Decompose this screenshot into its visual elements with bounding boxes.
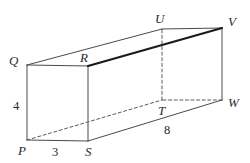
vertex-label-s: S [85, 144, 92, 159]
vertex-label-r: R [79, 50, 88, 65]
vertex-label-v: V [228, 14, 238, 29]
edge-Q-U [27, 29, 162, 65]
edge-R-V [88, 28, 222, 66]
vertex-label-u: U [155, 11, 166, 26]
dimension-labels: 438 [13, 99, 170, 159]
edge-P-S [27, 140, 88, 141]
prism-edges [27, 28, 222, 141]
edge-R-Q [27, 65, 88, 66]
edge-P-T [27, 100, 162, 140]
vertex-label-p: P [17, 143, 26, 158]
depth-label: 8 [164, 123, 170, 137]
width-label: 3 [52, 145, 58, 159]
edge-S-W [88, 100, 222, 141]
geometry-figure: PSRQTWVU 438 [0, 0, 250, 163]
prism-svg: PSRQTWVU 438 [0, 0, 250, 163]
vertex-label-t: T [158, 103, 166, 118]
height-label: 4 [13, 99, 20, 113]
vertex-label-q: Q [9, 53, 19, 68]
edge-U-V [162, 28, 222, 29]
vertex-label-w: W [228, 95, 240, 110]
